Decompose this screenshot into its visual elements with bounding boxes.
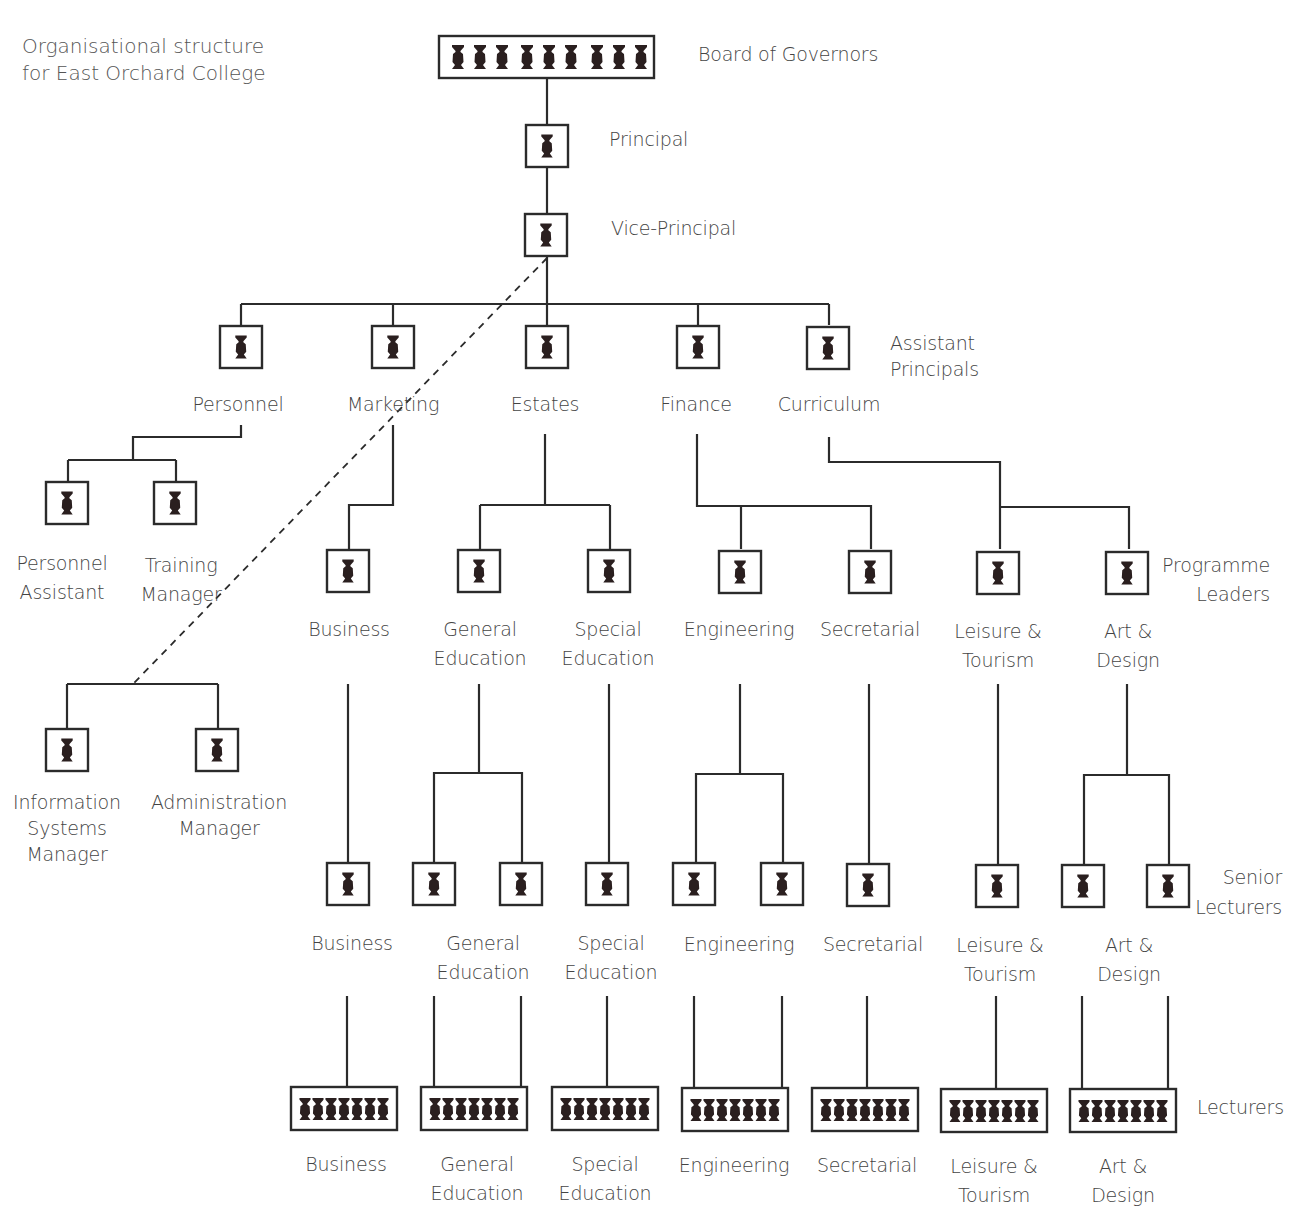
sl-label-secretarial: Secretarial [823, 930, 923, 959]
lec-label-business: Business [305, 1150, 387, 1179]
ap-marketing-box[interactable] [372, 326, 414, 368]
label-administration-manager: Administration Manager [151, 789, 287, 841]
sl-general-education-2-box[interactable] [500, 863, 542, 905]
lec-label-leisure-tourism: Leisure &Tourism [950, 1152, 1037, 1210]
lec-label-special-education: SpecialEducation [559, 1150, 652, 1208]
pl-secretarial-box[interactable] [849, 551, 891, 593]
pl-label-secretarial: Secretarial [820, 615, 920, 644]
lec-label-engineering: Engineering [679, 1151, 789, 1180]
sl-secretarial-box[interactable] [847, 864, 889, 906]
title-line-1: Organisational structure [22, 33, 266, 60]
training-manager-box[interactable] [154, 482, 196, 524]
ap-estates-box[interactable] [526, 326, 568, 368]
pl-leisure-tourism-box[interactable] [977, 552, 1019, 594]
pl-art-design-box[interactable] [1106, 552, 1148, 594]
pl-label-special-education: SpecialEducation [562, 615, 655, 673]
sl-art-design-1-box[interactable] [1062, 865, 1104, 907]
pl-engineering-box[interactable] [719, 551, 761, 593]
vice-principal-box[interactable] [525, 214, 567, 256]
ap-label-estates: Estates [511, 390, 580, 419]
board-of-governors-box[interactable] [439, 36, 654, 78]
pl-label-engineering: Engineering [684, 615, 794, 644]
information-systems-manager-box[interactable] [46, 729, 88, 771]
lecturers-leisure-tourism-box[interactable] [941, 1089, 1047, 1132]
pl-label-leisure-tourism: Leisure &Tourism [954, 617, 1041, 675]
lec-label-art-design: Art &Design [1091, 1152, 1155, 1210]
lecturers-general-education-box[interactable] [421, 1087, 527, 1130]
title-line-2: for East Orchard College [22, 60, 266, 87]
level-label-vice-principal: Vice-Principal [611, 214, 736, 243]
sl-art-design-2-box[interactable] [1147, 865, 1189, 907]
ap-label-marketing: Marketing [347, 390, 439, 419]
sl-general-education-1-box[interactable] [413, 863, 455, 905]
diagram-title: Organisational structure for East Orchar… [22, 33, 266, 87]
personnel-assistant-box[interactable] [46, 482, 88, 524]
ap-label-curriculum: Curriculum [778, 390, 881, 419]
pl-business-box[interactable] [327, 550, 369, 592]
level-label-assistant-principals: Assistant Principals [890, 330, 979, 382]
lecturers-engineering-box[interactable] [682, 1088, 788, 1131]
ap-finance-box[interactable] [677, 326, 719, 368]
level-label-lecturers: Lecturers [1197, 1093, 1284, 1122]
lecturers-special-education-box[interactable] [552, 1087, 658, 1130]
pl-label-art-design: Art &Design [1096, 617, 1160, 675]
principal-box[interactable] [526, 125, 568, 167]
level-label-programme-leaders: Programme Leaders [1160, 551, 1270, 609]
level-label-principal: Principal [609, 125, 688, 154]
level-label-board: Board of Governors [698, 40, 878, 69]
level-label-senior-lecturers: Senior Lecturers [1190, 862, 1282, 922]
label-training-manager: Training Manager [140, 551, 221, 609]
sl-label-special-education: SpecialEducation [565, 929, 658, 987]
ap-curriculum-box[interactable] [807, 327, 849, 369]
ap-label-finance: Finance [660, 390, 731, 419]
sl-label-leisure-tourism: Leisure &Tourism [956, 931, 1043, 989]
sl-label-general-education: GeneralEducation [437, 929, 530, 987]
sl-label-business: Business [311, 929, 393, 958]
lec-label-general-education: GeneralEducation [431, 1150, 524, 1208]
label-personnel-assistant: Personnel Assistant [16, 549, 107, 607]
pl-general-education-box[interactable] [458, 550, 500, 592]
sl-label-art-design: Art &Design [1097, 931, 1161, 989]
lec-label-secretarial: Secretarial [817, 1151, 917, 1180]
lecturers-art-design-box[interactable] [1070, 1089, 1176, 1132]
ap-personnel-box[interactable] [220, 326, 262, 368]
sl-business-box[interactable] [327, 863, 369, 905]
administration-manager-box[interactable] [196, 729, 238, 771]
pl-label-business: Business [308, 615, 390, 644]
lecturers-business-box[interactable] [291, 1087, 397, 1130]
sl-engineering-2-box[interactable] [761, 863, 803, 905]
sl-leisure-tourism-box[interactable] [976, 865, 1018, 907]
sl-label-engineering: Engineering [684, 930, 794, 959]
sl-engineering-1-box[interactable] [673, 863, 715, 905]
pl-special-education-box[interactable] [588, 550, 630, 592]
sl-special-education-box[interactable] [586, 863, 628, 905]
lecturers-secretarial-box[interactable] [812, 1088, 918, 1131]
ap-label-personnel: Personnel [192, 390, 283, 419]
label-information-systems-manager: Information Systems Manager [13, 789, 121, 867]
pl-label-general-education: GeneralEducation [434, 615, 527, 673]
org-chart-diagram [0, 0, 1294, 1224]
